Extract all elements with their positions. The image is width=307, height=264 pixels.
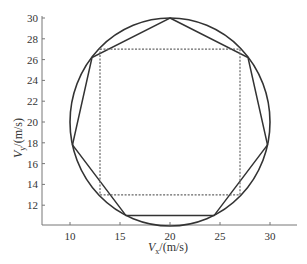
x-tick-label: 15 [115, 230, 127, 242]
y-tick-label: 24 [27, 74, 39, 86]
y-tick-label: 26 [27, 54, 39, 66]
y-tick-label: 14 [27, 178, 39, 190]
x-tick-label: 30 [265, 230, 277, 242]
y-tick-label: 18 [27, 137, 39, 149]
heptagon-polygon [73, 18, 268, 216]
axes [42, 16, 297, 225]
y-tick-label: 30 [27, 12, 39, 24]
y-tick-label: 22 [27, 95, 38, 107]
y-tick-label: 28 [27, 33, 39, 45]
x-tick-label: 25 [215, 230, 227, 242]
y-tick-label: 12 [27, 199, 38, 211]
y-tick-label: 16 [27, 158, 39, 170]
x-axis-label: Vx/(m/s) [148, 240, 188, 256]
y-tick-label: 20 [27, 116, 39, 128]
x-tick-label: 10 [65, 230, 77, 242]
chart: 1015202530 12141618202224262830 Vx/(m/s)… [0, 0, 307, 264]
square-polygon [100, 49, 240, 195]
plot-area [70, 18, 270, 226]
y-axis-label: Vy/(m/s) [11, 118, 27, 158]
